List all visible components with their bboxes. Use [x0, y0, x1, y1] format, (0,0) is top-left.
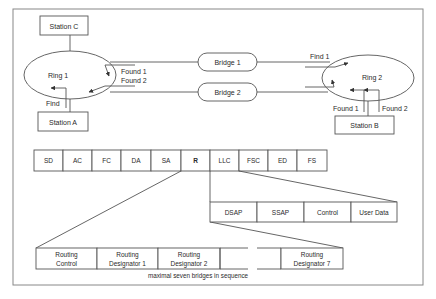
field-control: Control: [317, 209, 339, 216]
ring-2-label: Ring 2: [362, 74, 382, 82]
source-routing-diagram: Station C Ring 1 Station A Find Found 1 …: [0, 0, 436, 299]
ring-2-found-2-label: Found 2: [382, 105, 408, 112]
field-user-data: User Data: [359, 209, 389, 216]
routing-empty-cell-right: [257, 248, 281, 269]
routing-designator-2-line2: Designator 2: [171, 260, 208, 268]
bridge-2: Bridge 2: [198, 83, 257, 101]
llc-expand-right: [239, 171, 397, 202]
routing-designator-1-line1: Routing: [116, 251, 139, 259]
routing-designator-2-line1: Routing: [178, 251, 201, 259]
bridge-1-label: Bridge 1: [214, 59, 240, 67]
found-2-arrow-icon: [89, 86, 135, 92]
field-dsap: DSAP: [225, 209, 243, 216]
bridge-2-label: Bridge 2: [214, 89, 240, 97]
routing-control-line2: Control: [56, 260, 78, 267]
routing-designator-1-line2: Designator 1: [109, 260, 146, 268]
find-2-arrow-icon: [305, 80, 334, 87]
station-c-label: Station C: [50, 23, 79, 30]
ring-1-found-2-label: Found 2: [121, 77, 147, 84]
ring-1-found-1-label: Found 1: [121, 68, 147, 75]
field-fs: FS: [308, 157, 317, 164]
routing-caption: maximal seven bridges in sequence: [148, 272, 249, 280]
ring-1-find-label: Find: [46, 100, 60, 107]
r-expand-left: [36, 171, 181, 248]
station-c: Station C: [40, 16, 88, 35]
station-a: Station A: [38, 112, 88, 131]
routing-empty-cell-left: [220, 248, 248, 269]
field-r: R: [193, 157, 198, 164]
routing-control-line1: Routing: [55, 251, 78, 259]
r-expand-right: [210, 222, 343, 248]
station-a-label: Station A: [49, 119, 77, 126]
field-fc: FC: [102, 157, 111, 164]
routing-fields-row: Routing Control Routing Designator 1 Rou…: [36, 248, 343, 269]
llc-fields-row: DSAP SSAP Control User Data: [210, 202, 397, 222]
outer-border: [13, 9, 423, 285]
ring-2-find-1-label: Find 1: [310, 53, 330, 60]
field-llc: LLC: [219, 157, 231, 164]
ring-1-label: Ring 1: [48, 72, 68, 80]
field-ssap: SSAP: [272, 209, 289, 216]
field-fsc: FSC: [247, 157, 260, 164]
station-b: Station B: [335, 116, 394, 134]
bridge-1: Bridge 1: [198, 53, 257, 71]
ring-1: Ring 1: [24, 51, 116, 99]
ring-2-found-1-label: Found 1: [333, 105, 359, 112]
ring-2: Ring 2: [322, 55, 414, 101]
station-b-label: Station B: [350, 122, 379, 129]
field-ac: AC: [73, 157, 82, 164]
field-sa: SA: [162, 157, 171, 164]
field-da: DA: [131, 157, 141, 164]
frame-format-row: SD AC FC DA SA R LLC FSC ED FS: [34, 150, 327, 171]
find-1-arrow-icon: [305, 63, 348, 67]
field-ed: ED: [278, 157, 287, 164]
routing-designator-7-line1: Routing: [301, 251, 324, 259]
routing-designator-7-line2: Designator 7: [294, 260, 331, 268]
field-sd: SD: [44, 157, 53, 164]
